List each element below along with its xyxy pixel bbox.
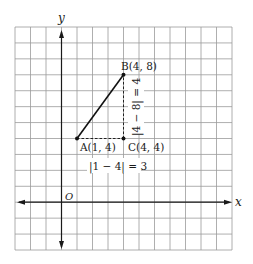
y-axis-label: y [57, 11, 65, 25]
x-axis-label: x [235, 195, 242, 209]
horizontal-distance-label: |1 − 4| = 3 [89, 160, 147, 174]
y-axis-arrow-down-icon [59, 241, 64, 249]
vertical-distance-label: |4 − 8| = 4 [130, 78, 144, 136]
x-axis-arrow-left-icon [17, 200, 25, 205]
x-axis-arrow-right-icon [224, 200, 232, 205]
point-a-label: A(1, 4) [79, 141, 116, 153]
point-b-dot-icon [122, 73, 126, 77]
point-c-label: C(4, 4) [128, 141, 164, 153]
point-c-dot-icon [122, 137, 126, 141]
point-b-label: B(4, 8) [121, 60, 157, 72]
origin-label: O [65, 191, 73, 202]
y-axis-arrow-up-icon [59, 30, 64, 38]
coordinate-plane: y x O B(4, 8) A(1, 4) C(4, 4) |1 − 4| = … [0, 0, 253, 264]
point-a-dot-icon [75, 137, 79, 141]
